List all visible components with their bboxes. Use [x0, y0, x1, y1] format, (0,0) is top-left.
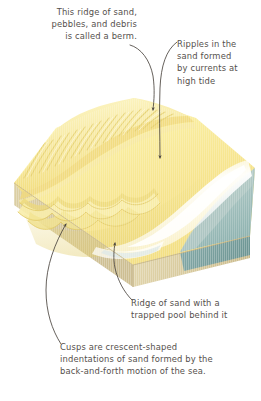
beach-block [14, 98, 255, 287]
annotation-cusps: Cusps are crescent-shaped indentations o… [60, 341, 261, 378]
annotation-ridge-pool: Ridge of sand with a trapped pool behind… [131, 297, 261, 321]
annotation-ripples: Ripples in the sand formed by currents a… [177, 38, 261, 87]
annotation-berm: This ridge of sand, pebbles, and debris … [13, 6, 137, 43]
